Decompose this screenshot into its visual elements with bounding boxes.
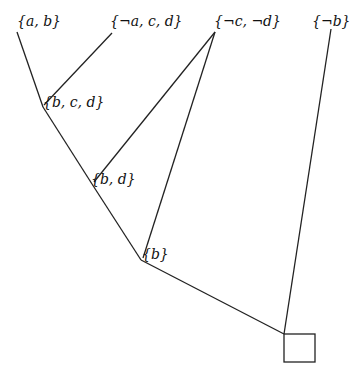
edge-ncnd-b [143,32,215,258]
node-b-c-d: {b, c, d} [43,95,104,109]
node-a-b: {a, b} [17,14,61,28]
edge-nb-empty [284,29,331,334]
edge-ncnd-bd [94,32,215,182]
edge-b-empty [141,260,284,334]
node-not-a-c-d: {¬a, c, d} [110,14,183,28]
empty-clause-box [284,334,315,362]
node-b-d: {b, d} [91,172,136,186]
node-not-b: {¬b} [312,14,351,28]
resolution-tree-edges [0,0,358,378]
edge-bcd-bd [43,107,92,184]
node-b: {b} [142,247,169,261]
edge-bd-b [92,184,141,260]
node-not-c-not-d: {¬c, ¬d} [214,14,281,28]
edge-ab-bcd [17,32,43,107]
